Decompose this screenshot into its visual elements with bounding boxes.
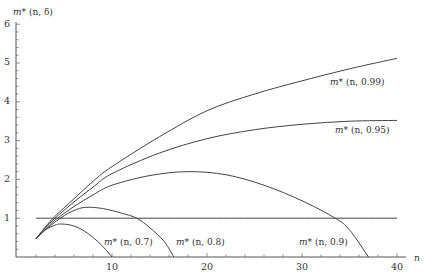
plot-curves	[36, 58, 397, 257]
y-axis-title: m* (n, δ)	[13, 7, 53, 17]
x-tick-label: 40	[391, 261, 403, 272]
y-tick-label: 2	[4, 173, 10, 184]
curve-m-n-0-7-	[36, 224, 112, 257]
x-tick-label: 30	[296, 261, 308, 272]
label-delta-0-95: m* (n, 0.95)	[335, 125, 390, 135]
x-axis-title: n	[414, 253, 420, 263]
x-tick-label: 10	[106, 261, 118, 272]
y-tick-label: 3	[4, 134, 10, 145]
y-tick-label: 6	[4, 18, 10, 29]
y-tick-label: 1	[4, 212, 10, 223]
y-tick-label: 5	[4, 56, 10, 67]
curve-m-n-0-95-	[36, 120, 397, 238]
y-tick-label: 4	[4, 95, 10, 106]
label-delta-0-8: m* (n, 0.8)	[176, 237, 225, 247]
label-delta-0-9: m* (n, 0.9)	[299, 237, 348, 247]
label-delta-0-7: m* (n, 0.7)	[104, 237, 153, 247]
axis-ticks	[16, 24, 397, 257]
x-tick-label: 20	[201, 261, 213, 272]
chart: 1 2 3 4 5 6 10 20 30 40 m* (n, δ) n m* (…	[0, 0, 425, 277]
label-delta-0-99: m* (n, 0.99)	[330, 77, 385, 87]
